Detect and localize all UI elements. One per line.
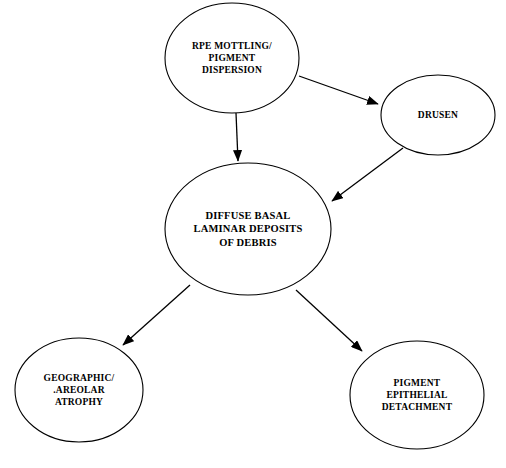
edge-diffuse-to-pigment [296,290,362,351]
nodes-group [15,3,495,449]
edge-drusen-to-diffuse [332,148,403,201]
edge-rpe-to-drusen [299,76,378,104]
node-rpe-mottling[interactable] [165,3,299,113]
node-diffuse-basal-laminar-deposits[interactable] [165,163,331,295]
diagram-svg [0,0,506,468]
node-geographic-areolar-atrophy[interactable] [15,338,143,442]
node-drusen[interactable] [381,75,495,155]
diagram-canvas: RPE MOTTLING/ PIGMENT DISPERSION DRUSEN … [0,0,506,468]
node-pigment-epithelial-detachment[interactable] [350,341,484,449]
edge-diffuse-to-geographic [123,285,190,345]
edge-rpe-to-diffuse [236,113,238,161]
